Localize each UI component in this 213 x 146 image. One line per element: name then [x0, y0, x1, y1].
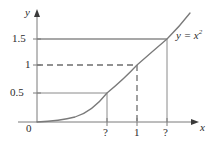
figure-canvas: y x 0 1.5 1 0.5 ? 1 ? y = x2: [0, 0, 213, 146]
x-tick-label-left-unknown: ?: [103, 127, 108, 138]
curve-equation-exponent: 2: [199, 28, 203, 36]
origin-label: 0: [26, 123, 32, 134]
curve-equation-base: y = x: [176, 29, 199, 41]
y-axis-label: y: [25, 7, 30, 18]
x-axis-label: x: [200, 122, 205, 133]
y-tick-label-0-5: 0.5: [10, 87, 24, 98]
curve-equation-label: y = x2: [176, 29, 202, 41]
x-tick-label-right-unknown: ?: [163, 127, 168, 138]
y-tick-label-1-5: 1.5: [12, 33, 26, 44]
y-tick-label-1: 1: [25, 59, 31, 70]
x-tick-label-1: 1: [134, 127, 140, 138]
